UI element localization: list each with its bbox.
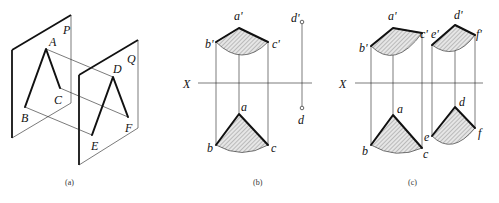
label-a: a bbox=[397, 102, 403, 116]
sector-top-def bbox=[432, 107, 475, 144]
label-c-prime: c' bbox=[272, 37, 280, 51]
label-A: A bbox=[48, 35, 57, 49]
label-b-prime: b' bbox=[205, 37, 214, 51]
label-a-prime: a' bbox=[388, 9, 397, 23]
label-C: C bbox=[54, 93, 63, 107]
panel-c: X a' b' c' e' d' f' a b c e d f (c) bbox=[338, 8, 483, 187]
label-b-prime: b' bbox=[359, 41, 368, 55]
label-d-prime: d' bbox=[454, 8, 463, 22]
label-E: E bbox=[90, 139, 99, 153]
label-d-prime: d' bbox=[291, 11, 300, 25]
point-d-prime bbox=[300, 20, 304, 24]
label-P: P bbox=[62, 23, 71, 37]
panel-b: X a' b' c' d' a b c d (b) bbox=[182, 9, 312, 187]
label-d: d bbox=[298, 113, 305, 127]
label-a-prime: a' bbox=[234, 9, 243, 23]
label-c-prime: c' bbox=[420, 27, 428, 41]
label-e: e bbox=[424, 130, 430, 144]
label-D: D bbox=[112, 62, 122, 76]
label-f-prime: f' bbox=[476, 27, 482, 41]
label-c: c bbox=[423, 147, 429, 161]
label-a: a bbox=[241, 100, 247, 114]
diagram-canvas: P Q A B C D E F (a) X a' b' c' d' a b c bbox=[0, 0, 499, 203]
point-d bbox=[300, 106, 304, 110]
label-c: c bbox=[271, 141, 277, 155]
panel-a: P Q A B C D E F (a) bbox=[12, 15, 138, 187]
axis-label-X: X bbox=[338, 77, 347, 91]
axis-label-X: X bbox=[182, 77, 191, 91]
sector-front-abc bbox=[216, 28, 268, 55]
caption-b: (b) bbox=[253, 178, 263, 187]
label-b: b bbox=[207, 141, 213, 155]
label-Q: Q bbox=[127, 52, 136, 66]
line-edf bbox=[92, 77, 128, 135]
caption-c: (c) bbox=[408, 178, 417, 187]
label-f: f bbox=[478, 126, 483, 140]
caption-a: (a) bbox=[65, 178, 74, 187]
label-e-prime: e' bbox=[431, 27, 439, 41]
label-B: B bbox=[21, 111, 29, 125]
label-b: b bbox=[362, 144, 368, 158]
label-F: F bbox=[124, 121, 133, 135]
label-d: d bbox=[459, 95, 466, 109]
